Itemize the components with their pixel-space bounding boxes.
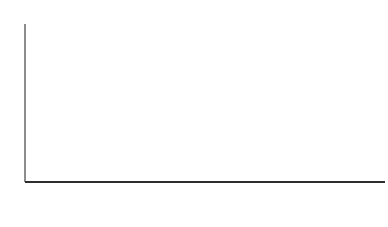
income-distribution-chart <box>0 0 388 227</box>
plot-area <box>25 25 385 181</box>
x-axis-labels <box>0 182 388 227</box>
bars-layer <box>25 25 385 181</box>
